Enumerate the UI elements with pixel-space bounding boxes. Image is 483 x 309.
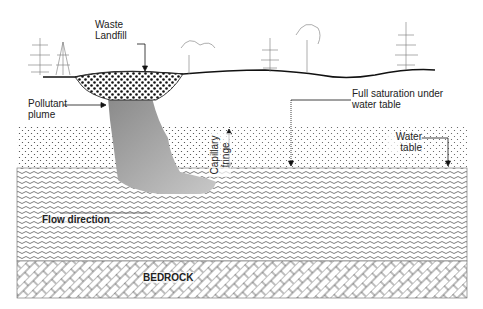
water-table-label: Water table — [388, 131, 422, 153]
saturation-label: Full saturation under water table — [352, 88, 443, 110]
capillary-fringe-label: Capillary fringe — [209, 133, 231, 177]
flow-direction-label: Flow direction — [42, 214, 110, 225]
plume-label: Pollutant plume — [28, 98, 67, 120]
groundwater-diagram — [0, 0, 483, 309]
bedrock-label: BEDROCK — [143, 272, 194, 283]
tree-icon — [28, 22, 418, 75]
landfill-label: Waste Landfill — [95, 19, 127, 41]
